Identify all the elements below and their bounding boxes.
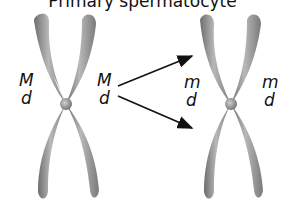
allele-label: d <box>264 91 275 109</box>
allele-label: d <box>186 91 197 109</box>
allele-label: d <box>21 89 32 107</box>
allele-label: M <box>97 71 112 89</box>
centromere-icon <box>225 98 237 110</box>
allele-label: m <box>262 73 279 91</box>
chromosome-diagram <box>0 0 285 212</box>
centromere-icon <box>60 98 72 110</box>
arrow-upper-icon <box>118 56 192 86</box>
allele-label: d <box>99 89 110 107</box>
arrow-lower-icon <box>118 96 192 128</box>
left-chromosome <box>34 14 99 199</box>
allele-label: M <box>19 71 34 89</box>
right-chromosome <box>200 14 263 198</box>
allele-label: m <box>184 73 201 91</box>
